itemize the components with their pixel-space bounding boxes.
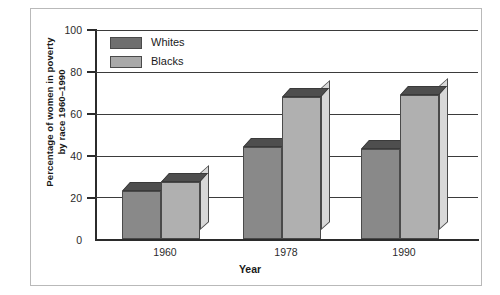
- gridline-80: [96, 72, 478, 73]
- bar-face: [243, 147, 282, 239]
- bar-side: [321, 80, 330, 230]
- bar-1960-blacks: [161, 182, 200, 239]
- gridline-100: [96, 30, 478, 31]
- x-tick-label-1960: 1960: [125, 247, 205, 258]
- legend-item-blacks: Blacks: [110, 53, 230, 70]
- chart-legend: Whites Blacks: [110, 34, 230, 72]
- y-tick-label-0: 0: [56, 235, 82, 246]
- bar-top: [400, 86, 447, 95]
- x-tick-label-1978: 1978: [246, 247, 326, 258]
- bar-1990-whites: [361, 149, 400, 239]
- bar-side: [439, 78, 448, 230]
- bar-face: [282, 97, 321, 239]
- whites-swatch-icon: [110, 37, 142, 49]
- bar-face: [361, 149, 400, 239]
- bar-face: [122, 191, 161, 239]
- bar-1978-blacks: [282, 97, 321, 239]
- y-axis-title-line2: by race 1960–1990: [56, 12, 68, 212]
- y-axis-title-line1: Percentage of women in poverty: [44, 12, 56, 212]
- y-axis-title: Percentage of women in poverty by race 1…: [44, 12, 68, 212]
- x-axis-title: Year: [0, 264, 500, 275]
- legend-label-blacks: Blacks: [151, 56, 183, 67]
- bar-top: [282, 88, 329, 97]
- bar-face: [161, 182, 200, 239]
- x-tick-label-1990: 1990: [364, 247, 444, 258]
- bar-1990-blacks: [400, 95, 439, 239]
- bar-1960-whites: [122, 191, 161, 239]
- legend-label-whites: Whites: [151, 37, 185, 48]
- bar-1978-whites: [243, 147, 282, 239]
- chart-figure: 100 80 60 40 20 0 Percentage of women in…: [0, 0, 500, 295]
- legend-item-whites: Whites: [110, 34, 230, 51]
- blacks-swatch-icon: [110, 56, 142, 68]
- bar-face: [400, 95, 439, 239]
- x-axis-line: [95, 239, 479, 241]
- bar-top: [161, 173, 208, 182]
